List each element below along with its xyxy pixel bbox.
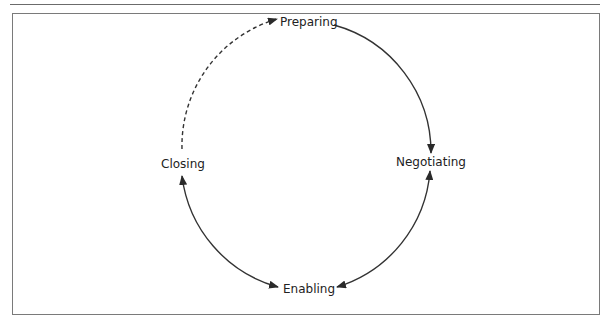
arrow-enabling-closing <box>182 176 278 287</box>
stage-label-closing: Closing <box>161 157 205 171</box>
arrow-negotiating-enabling <box>337 171 430 287</box>
stage-label-negotiating: Negotiating <box>396 155 466 169</box>
stage-label-enabling: Enabling <box>283 282 335 296</box>
cycle-diagram <box>0 0 611 326</box>
arrow-closing-to-preparing <box>182 19 277 149</box>
arrow-preparing-to-negotiating <box>334 25 431 153</box>
stage-label-preparing: Preparing <box>280 15 338 29</box>
